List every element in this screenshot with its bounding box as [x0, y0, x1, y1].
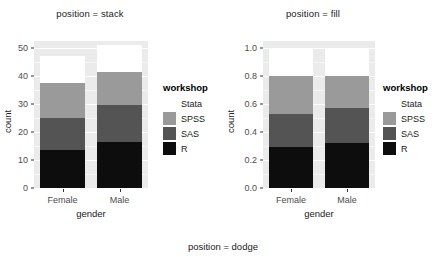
legend-swatch-sas — [163, 127, 176, 140]
plot-area-stack — [34, 41, 148, 188]
x-tick-label-female: Female — [47, 195, 77, 205]
y-tick-label: 20 — [18, 128, 28, 137]
x-tick-label-female: Female — [276, 195, 306, 205]
y-tick-label: 10 — [18, 156, 28, 165]
legend-item-spss[interactable]: SPSS — [383, 111, 428, 126]
legend-label: Stata — [181, 99, 202, 109]
legend-label: R — [181, 144, 188, 154]
x-tick-label-male: Male — [337, 195, 357, 205]
legend-stack: workshop StataSPSSSASR — [163, 82, 208, 156]
bar-segment-sas[interactable] — [325, 108, 370, 142]
figure: position = stack count 01020304050 Femal… — [0, 0, 446, 257]
bar-female[interactable] — [269, 48, 314, 188]
legend-label: R — [401, 144, 408, 154]
legend-title: workshop — [163, 82, 208, 93]
y-tick-label: 0.4 — [244, 128, 257, 137]
legend-label: SAS — [181, 129, 199, 139]
legend-item-r[interactable]: R — [383, 141, 428, 156]
legend-swatch-sas — [383, 127, 396, 140]
plot-area-fill — [263, 41, 375, 188]
y-tick-label: 0.8 — [244, 72, 257, 81]
legend-item-stata[interactable]: Stata — [383, 96, 428, 111]
legend-swatch-stata — [163, 97, 176, 110]
bar-segment-sas[interactable] — [269, 114, 314, 147]
bar-segment-stata[interactable] — [325, 48, 370, 76]
x-tick-mark — [120, 189, 121, 192]
legend-label: Stata — [401, 99, 422, 109]
y-tick-label: 30 — [18, 100, 28, 109]
bar-segment-r[interactable] — [325, 143, 370, 188]
x-axis-title-stack: gender — [34, 208, 148, 219]
legend-swatch-spss — [163, 112, 176, 125]
legend-swatch-spss — [383, 112, 396, 125]
bar-segment-spss[interactable] — [325, 76, 370, 108]
x-tick-mark — [63, 189, 64, 192]
legend-swatch-r — [163, 142, 176, 155]
x-tick-label-male: Male — [110, 195, 130, 205]
bar-segment-r[interactable] — [269, 147, 314, 188]
panel-fill: position = fill count 0.00.20.40.60.81.0… — [223, 0, 446, 257]
x-axis-title-fill: gender — [263, 208, 375, 219]
y-tick-label: 1.0 — [244, 44, 257, 53]
legend-item-sas[interactable]: SAS — [163, 126, 208, 141]
legend-label: SAS — [401, 129, 419, 139]
bar-segment-stata[interactable] — [269, 48, 314, 76]
legend-label: SPSS — [401, 114, 425, 124]
legend-swatch-stata — [383, 97, 396, 110]
y-tick-label: 0.2 — [244, 156, 257, 165]
bar-male[interactable] — [97, 45, 143, 188]
panel-stack: position = stack count 01020304050 Femal… — [0, 0, 223, 257]
y-tick-label: 0.0 — [244, 184, 257, 193]
bar-segment-r[interactable] — [97, 142, 143, 188]
bar-segment-spss[interactable] — [40, 83, 86, 118]
legend-title: workshop — [383, 82, 428, 93]
legend-item-r[interactable]: R — [163, 141, 208, 156]
bar-segment-sas[interactable] — [40, 118, 86, 150]
legend-swatch-r — [383, 142, 396, 155]
bar-segment-r[interactable] — [40, 150, 86, 188]
legend-fill: workshop StataSPSSSASR — [383, 82, 428, 156]
bar-female[interactable] — [40, 56, 86, 188]
bar-segment-sas[interactable] — [97, 105, 143, 141]
y-tick-label: 0 — [23, 184, 28, 193]
x-tick-mark — [291, 189, 292, 192]
y-tick-label: 40 — [18, 72, 28, 81]
legend-entries: StataSPSSSASR — [383, 96, 428, 156]
x-tick-mark — [347, 189, 348, 192]
bar-segment-spss[interactable] — [97, 72, 143, 106]
legend-label: SPSS — [181, 114, 205, 124]
legend-item-spss[interactable]: SPSS — [163, 111, 208, 126]
bar-segment-stata[interactable] — [40, 56, 86, 83]
y-tick-label: 0.6 — [244, 100, 257, 109]
bar-segment-spss[interactable] — [269, 76, 314, 114]
legend-entries: StataSPSSSASR — [163, 96, 208, 156]
legend-item-sas[interactable]: SAS — [383, 126, 428, 141]
y-tick-label: 50 — [18, 44, 28, 53]
bar-male[interactable] — [325, 48, 370, 188]
legend-item-stata[interactable]: Stata — [163, 96, 208, 111]
figure-caption: position = dodge — [0, 241, 446, 252]
bar-segment-stata[interactable] — [97, 45, 143, 72]
